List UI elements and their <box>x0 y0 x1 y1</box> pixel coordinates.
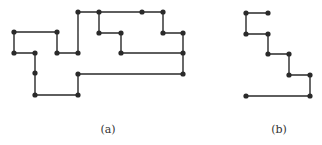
node <box>180 50 185 55</box>
node <box>75 92 80 97</box>
node <box>75 71 80 76</box>
node <box>32 50 37 55</box>
node <box>160 9 165 14</box>
node <box>54 29 59 34</box>
node <box>265 31 270 36</box>
node <box>32 92 37 97</box>
node <box>243 31 248 36</box>
node <box>307 72 312 77</box>
node <box>286 72 291 77</box>
node <box>307 93 312 98</box>
node <box>139 9 144 14</box>
node <box>54 50 59 55</box>
node <box>286 51 291 56</box>
node <box>96 9 101 14</box>
node <box>96 30 101 35</box>
node <box>32 70 37 75</box>
node <box>265 51 270 56</box>
caption-a: (a) <box>100 123 115 136</box>
node <box>243 10 248 15</box>
figure-b <box>243 10 312 98</box>
node <box>180 30 185 35</box>
caption-b: (b) <box>271 123 287 136</box>
node <box>75 9 80 14</box>
node <box>75 50 80 55</box>
node <box>265 10 270 15</box>
node <box>243 93 248 98</box>
node <box>11 29 16 34</box>
node <box>11 50 16 55</box>
node <box>118 50 123 55</box>
figure-a <box>11 9 185 97</box>
node <box>180 71 185 76</box>
path-edge <box>246 13 310 96</box>
node <box>118 30 123 35</box>
node <box>160 30 165 35</box>
